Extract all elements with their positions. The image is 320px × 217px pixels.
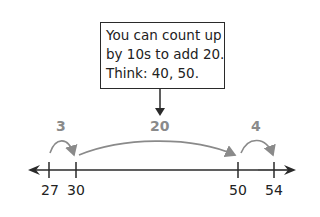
tick-label-50: 50 bbox=[229, 182, 247, 198]
tick-label-54: 54 bbox=[265, 182, 283, 198]
jump-label-3: 3 bbox=[56, 118, 66, 134]
jump-arrow-4 bbox=[241, 140, 273, 155]
jump-label-4: 4 bbox=[251, 118, 261, 134]
jump-arrow-20 bbox=[79, 141, 235, 155]
jump-label-20: 20 bbox=[150, 118, 169, 134]
tick-label-30: 30 bbox=[67, 182, 85, 198]
callout-pointer-arrow bbox=[155, 89, 165, 116]
number-line bbox=[28, 162, 296, 178]
jump-arrow-3 bbox=[50, 141, 74, 155]
tick-label-27: 27 bbox=[41, 182, 59, 198]
